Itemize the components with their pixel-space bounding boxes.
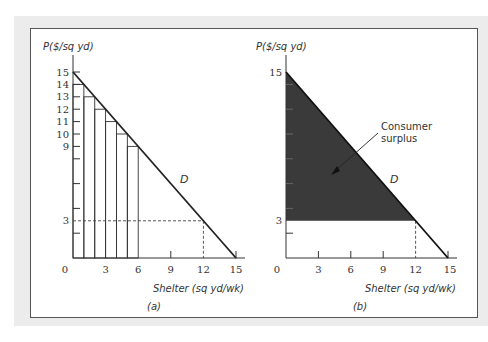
svg-text:3: 3 [102, 264, 108, 275]
y-tick-labels: 15 14 13 12 11 10 9 3 [56, 67, 69, 227]
svg-text:9: 9 [380, 264, 386, 275]
y-axis-label: P($/sq yd) [43, 41, 94, 52]
chart-a: P($/sq yd) [43, 41, 245, 312]
svg-text:15: 15 [56, 67, 69, 78]
svg-text:0: 0 [274, 264, 280, 275]
annotation-text: Consumer [381, 121, 433, 132]
svg-text:0: 0 [62, 264, 68, 275]
svg-text:14: 14 [56, 79, 69, 90]
svg-text:9: 9 [63, 141, 69, 152]
svg-text:12: 12 [409, 264, 422, 275]
svg-text:13: 13 [56, 91, 69, 102]
x-tick-labels: 0 3 6 9 12 15 [62, 264, 243, 275]
svg-text:6: 6 [348, 264, 354, 275]
axes [73, 55, 245, 258]
svg-text:15: 15 [269, 67, 282, 78]
curve-label: D [390, 173, 398, 186]
svg-text:3: 3 [276, 215, 282, 226]
charts: P($/sq yd) [0, 0, 488, 342]
svg-text:10: 10 [56, 129, 69, 140]
x-axis-label: Shelter (sq yd/wk) [365, 283, 456, 294]
svg-text:6: 6 [135, 264, 141, 275]
chart-b: P($/sq yd) D Consumer surplus [256, 41, 457, 312]
x-axis-label: Shelter (sq yd/wk) [153, 283, 244, 294]
y-axis-label: P($/sq yd) [256, 41, 307, 52]
svg-text:3: 3 [63, 215, 69, 226]
panel-label: (b) [353, 301, 367, 312]
panel-label: (a) [147, 301, 161, 312]
y-tick-labels: 15 3 [269, 67, 282, 227]
svg-text:12: 12 [197, 264, 210, 275]
x-tick-labels: 0 3 6 9 12 15 [274, 264, 457, 275]
svg-text:3: 3 [315, 264, 321, 275]
annotation-text-2: surplus [381, 133, 417, 144]
demand-curve [73, 72, 236, 258]
curve-label: D [180, 173, 188, 186]
svg-text:11: 11 [56, 116, 69, 127]
svg-text:12: 12 [56, 104, 69, 115]
svg-text:15: 15 [444, 264, 457, 275]
svg-text:15: 15 [230, 264, 243, 275]
svg-text:9: 9 [168, 264, 174, 275]
